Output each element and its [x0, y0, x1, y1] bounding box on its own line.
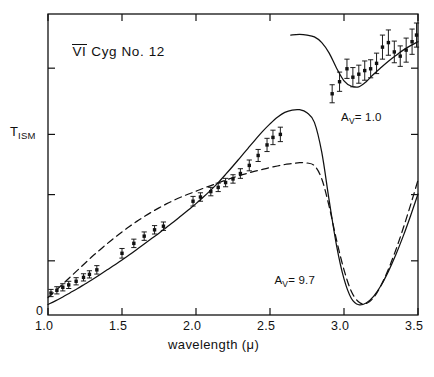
datapoint-observed-av9.7 — [270, 130, 275, 144]
datapoint-observed-av9.7 — [87, 271, 92, 278]
datapoint-observed-av1.0 — [356, 65, 361, 83]
origin-label: 0 — [36, 304, 43, 318]
datapoint-observed-av1.0 — [398, 46, 403, 66]
datapoint-observed-av1.0 — [409, 29, 414, 54]
figure-root: VI Cyg No. 12 TISM wavelength (μ) 0 1.01… — [0, 0, 434, 377]
datapoint-observed-av9.7 — [131, 239, 136, 247]
datapoint-observed-av9.7 — [198, 193, 203, 201]
datapoint-observed-av9.7 — [142, 232, 147, 240]
chart-title: VI Cyg No. 12 — [72, 44, 165, 60]
annotation-rest: = 1.0 — [355, 111, 382, 123]
datapoint-observed-av1.0 — [404, 38, 409, 62]
datapoint-observed-av9.7 — [161, 222, 166, 230]
datapoint-observed-av9.7 — [278, 127, 283, 141]
title-roman-numeral: VI — [72, 44, 87, 60]
datapoint-observed-av9.7 — [238, 169, 243, 179]
x-tick-label-2-5: 2.5 — [257, 319, 275, 333]
x-tick-label-1-0: 1.0 — [35, 319, 53, 333]
x-tick-label-3-0: 3.0 — [331, 319, 349, 333]
datapoint-observed-av1.0 — [362, 61, 367, 80]
annotation-av-9-7: AV= 9.7 — [274, 274, 315, 289]
x-axis-label-prefix: wavelength ( — [168, 337, 247, 352]
y-axis-label-main: T — [10, 124, 18, 139]
series-model-dashed-av9.7 — [48, 163, 418, 304]
annotation-rest: = 9.7 — [288, 274, 315, 286]
datapoint-observed-av1.0 — [330, 85, 335, 103]
series-model-solid-av1.0 — [291, 34, 418, 87]
datapoint-observed-av9.7 — [119, 248, 124, 258]
datapoint-observed-av9.7 — [223, 178, 228, 186]
datapoint-observed-av1.0 — [386, 30, 391, 55]
datapoint-observed-av9.7 — [74, 278, 79, 285]
datapoint-observed-av9.7 — [152, 226, 157, 234]
series-model-solid-av9.7 — [48, 109, 418, 305]
datapoint-observed-av9.7 — [66, 281, 71, 288]
x-tick-label-1-5: 1.5 — [109, 319, 127, 333]
x-axis-label: wavelength (μ) — [168, 337, 259, 352]
data-points — [48, 23, 419, 297]
chart-canvas — [0, 0, 434, 377]
datapoint-observed-av9.7 — [256, 149, 261, 161]
datapoint-observed-av1.0 — [344, 59, 349, 78]
datapoint-observed-av9.7 — [60, 284, 65, 291]
x-axis-label-suffix: ) — [254, 337, 259, 352]
datapoint-observed-av9.7 — [264, 138, 269, 151]
datapoint-observed-av1.0 — [392, 41, 397, 63]
curve-series — [48, 34, 418, 305]
datapoint-observed-av9.7 — [247, 160, 252, 171]
datapoint-observed-av1.0 — [380, 35, 385, 59]
datapoint-observed-av1.0 — [350, 68, 355, 87]
annotation-av-1-0: AV= 1.0 — [341, 111, 382, 126]
annotation-main: A — [341, 111, 349, 123]
datapoint-observed-av9.7 — [81, 274, 86, 281]
y-axis-label: TISM — [10, 124, 36, 141]
datapoint-observed-av1.0 — [337, 72, 342, 91]
title-rest: Cyg No. 12 — [87, 44, 165, 59]
y-axis-label-sub: ISM — [18, 130, 36, 141]
x-tick-label-2-0: 2.0 — [183, 319, 201, 333]
datapoint-observed-av9.7 — [94, 266, 99, 274]
x-tick-label-3-5: 3.5 — [405, 319, 423, 333]
